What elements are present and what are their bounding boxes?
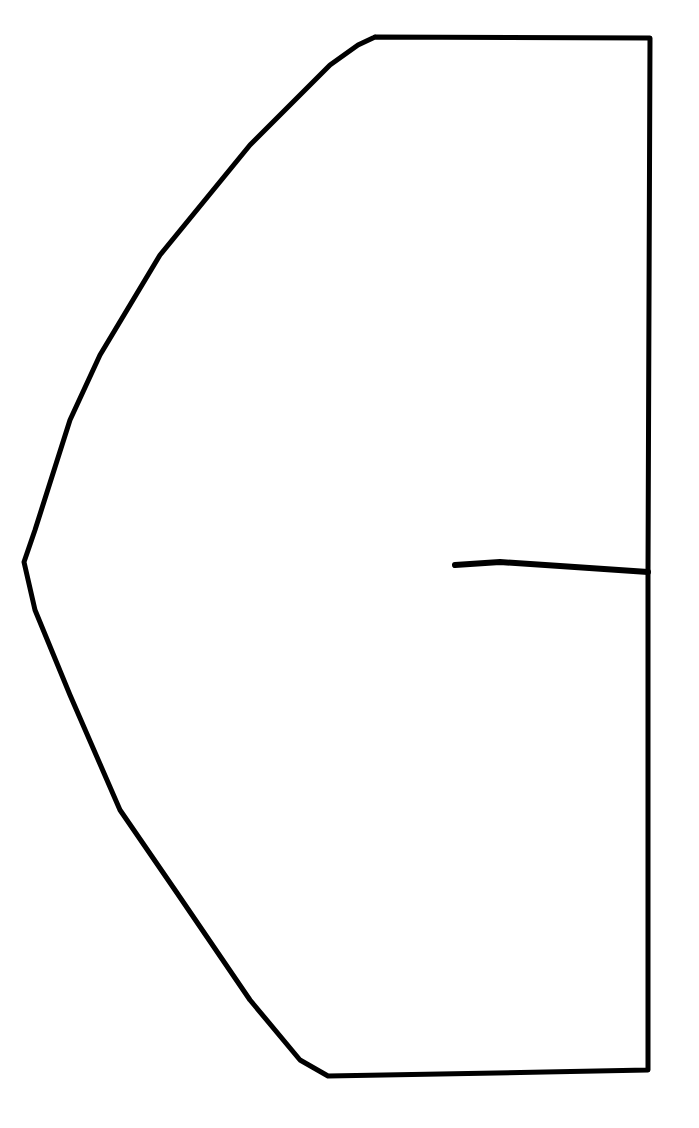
- paper-background: [0, 0, 699, 1128]
- sketch-svg: [0, 0, 699, 1128]
- drawing-canvas: [0, 0, 699, 1128]
